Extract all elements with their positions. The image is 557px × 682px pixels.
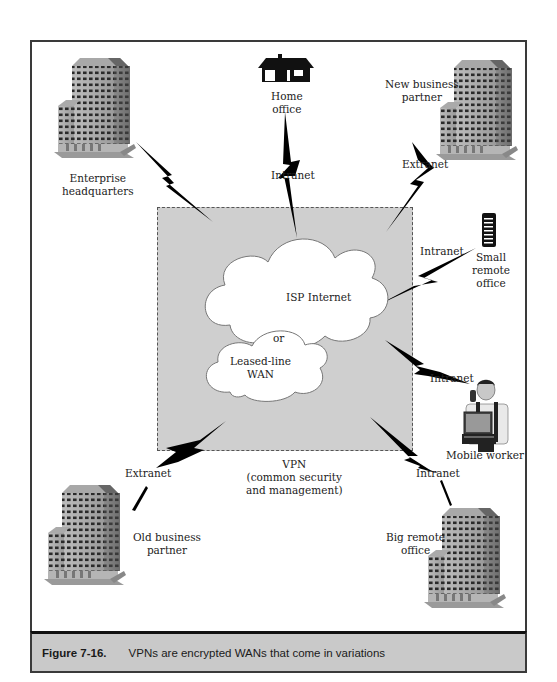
link-label-big-remote-intranet: Intranet [416,467,460,480]
building-icon-old-partner [44,485,126,585]
label-line: WAN [230,368,291,381]
bolt-new-partner [386,142,434,232]
label-line: Home [271,90,303,103]
label-line: New business [385,78,459,91]
label-line: Big remote [386,531,445,544]
label-line: office [386,544,445,557]
label-line: headquarters [62,185,134,198]
label-old-partner: Old business partner [133,531,201,557]
label-line: remote [472,264,510,277]
caption-text: VPNs are encrypted WANs that come in var… [129,647,386,659]
label-line: office [472,277,510,290]
house-icon [258,54,314,82]
label-isp-internet: ISP Internet [286,291,351,304]
label-small-remote: Small remote office [472,251,510,290]
label-vpn: VPN (common security and management) [246,458,343,497]
bolt-big-remote [370,417,440,474]
label-or: or [273,332,284,345]
mobile-worker-icon [462,380,508,452]
link-label-small-remote-intranet: Intranet [420,245,464,258]
label-line: partner [133,544,201,557]
label-line: (common security [246,471,343,484]
label-line: Small [472,251,510,264]
label-line: VPN [246,458,343,471]
label-enterprise-hq: Enterprise headquarters [62,172,134,198]
label-line: partner [385,91,459,104]
label-new-partner: New business partner [385,78,459,104]
label-line: Enterprise [62,172,134,185]
label-line: Leased-line [230,355,291,368]
link-label-old-partner-extranet: Extranet [125,467,171,480]
link-label-home-intranet: Intranet [271,169,315,182]
link-label-mobile-intranet: Intranet [430,372,474,385]
figure-number: Figure 7-16. [42,647,107,659]
label-big-remote: Big remote office [386,531,445,557]
server-icon [482,213,496,247]
building-icon-new-partner [436,60,518,160]
label-leased-line-wan: Leased-line WAN [230,355,291,381]
bolt-old-partner [156,421,226,468]
building-icon-enterprise [54,58,136,158]
figure-caption: Figure 7-16. VPNs are encrypted WANs tha… [30,631,527,673]
label-mobile-worker: Mobile worker [446,449,524,462]
bolt-enterprise [136,142,213,222]
link-label-new-partner-extranet: Extranet [402,158,448,171]
label-line: Old business [133,531,201,544]
label-line: and management) [246,484,343,497]
label-line: office [271,103,303,116]
label-home-office: Home office [271,90,303,116]
building-icon-big-remote [424,508,506,608]
